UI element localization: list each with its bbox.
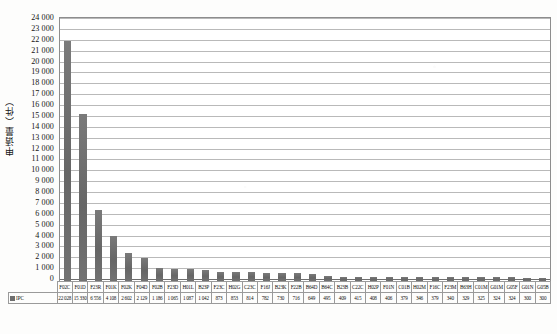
table-cell-category: C23C [242,282,257,293]
table-cell-category: B63H [458,282,473,293]
gridline [60,192,550,193]
gridline [60,149,550,150]
gridline [60,40,550,41]
bar [232,272,239,281]
gridline [60,83,550,84]
table-cell-value: 415 [350,293,365,304]
table-cell-category: F01N [381,282,396,293]
gridline [60,236,550,237]
table-cell-value: 1 186 [150,293,165,304]
gridline [60,72,550,73]
table-cell-value: 1 087 [180,293,195,304]
table-cell-value: 340 [443,293,458,304]
table-cell-category: F02C [57,282,72,293]
y-tick-label: 3 000 [35,242,54,250]
gridline [60,159,550,160]
table-cell-value: 2 129 [134,293,149,304]
y-tick-label: 20 000 [31,58,54,66]
table-cell-category: F04D [134,282,149,293]
table-cell-value: 324 [504,293,519,304]
table-cell-category: G05F [504,282,519,293]
y-tick-label: 9 000 [35,177,54,185]
table-cell-value: 15 330 [72,293,87,304]
table-cell-value: 379 [427,293,442,304]
bar [95,210,102,281]
table-cell-category: B64C [319,282,334,293]
bar [263,273,270,282]
y-tick-label: 7 000 [35,199,54,207]
table-cell-value: 346 [412,293,427,304]
y-tick-label: 13 000 [31,134,54,142]
table-cell-category: B23B [335,282,350,293]
gridline [60,62,550,63]
gridline [60,203,550,204]
table-cell-value: 649 [304,293,319,304]
table-cell-value: 409 [335,293,350,304]
y-tick-label: 10 000 [31,166,54,174]
table-cell-category: F16C [427,282,442,293]
table-cell-category: C01B [396,282,411,293]
table-cell-category: F23M [443,282,458,293]
table-cell-value: 325 [473,293,488,304]
y-tick-label: 4 000 [35,232,54,240]
table-cell-category: B23K [273,282,288,293]
bar [64,41,71,281]
table-row-values: IPC22 02815 3306 5564 1082 6022 1291 186… [9,293,551,304]
gridline [60,138,550,139]
gridline [60,94,550,95]
table-cell-category: G01N [520,282,535,293]
table-corner-blank [9,282,58,293]
table-cell-value: 22 028 [57,293,72,304]
table-cell-category: B64D [304,282,319,293]
bar [187,269,194,281]
figure-container: 申请量（件） 24 00023 00022 00021 00020 00019 … [0,0,557,334]
y-tick-label: 2 000 [35,253,54,261]
table-cell-category: C01M [473,282,488,293]
chart-plot-area [60,18,550,281]
table-cell-category: G05B [535,282,550,293]
y-axis-tick-labels: 24 00023 00022 00021 00020 00019 00018 0… [0,10,57,290]
table-cell-value: 730 [273,293,288,304]
y-tick-label: 8 000 [35,188,54,196]
legend-entry: IPC [9,293,58,304]
table-cell-value: 716 [288,293,303,304]
gridline [60,257,550,258]
y-tick-label: 24 000 [31,14,54,22]
legend-swatch-icon [10,296,15,301]
gridline [60,116,550,117]
gridline [60,51,550,52]
table-cell-value: 1 042 [196,293,211,304]
bar [202,270,209,281]
y-tick-label: 23 000 [31,25,54,33]
bar [156,268,163,281]
table-cell-value: 782 [257,293,272,304]
table-cell-value: 408 [365,293,380,304]
table-cell-value: 6 556 [88,293,103,304]
y-tick-label: 6 000 [35,210,54,218]
y-tick-label: 21 000 [31,47,54,55]
gridline [60,18,550,19]
table-cell-category: F23C [211,282,226,293]
table-cell-category: H02P [365,282,380,293]
table-cell-category: F02B [150,282,165,293]
y-tick-label: 16 000 [31,101,54,109]
table-cell-category: F16J [257,282,272,293]
y-tick-label: 17 000 [31,90,54,98]
bar [294,273,301,281]
bar [110,236,117,281]
gridline [60,29,550,30]
table-cell-value: 873 [211,293,226,304]
bar [171,269,178,281]
bar [141,258,148,281]
table-cell-value: 406 [381,293,396,304]
table-cell-value: 814 [242,293,257,304]
legend-label: IPC [16,295,24,301]
gridline [60,181,550,182]
gridline [60,268,550,269]
gridline [60,170,550,171]
table-cell-value: 300 [520,293,535,304]
bar [79,114,86,281]
table-cell-value: 324 [489,293,504,304]
bar [217,272,224,281]
y-tick-label: 22 000 [31,36,54,44]
